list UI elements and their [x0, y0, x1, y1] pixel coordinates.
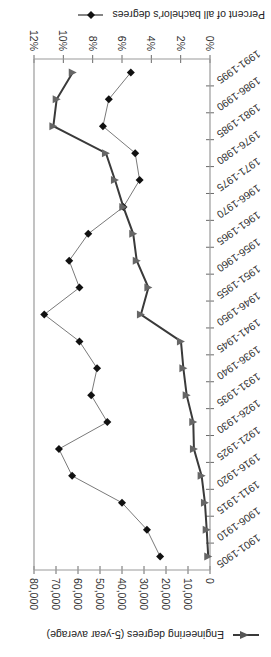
- primary-tick-label: 80,000: [28, 578, 40, 610]
- diamond-marker-icon: [75, 337, 83, 345]
- secondary-tick-label: 8%: [87, 36, 99, 51]
- secondary-tick-label: 0%: [204, 36, 216, 51]
- legend-triangle-marker-icon: [240, 631, 249, 639]
- legend-percent: Percent of all bachelor's degrees: [78, 9, 265, 21]
- secondary-tick-label: 6%: [116, 36, 128, 51]
- diamond-marker-icon: [87, 391, 95, 399]
- engineering-line: [53, 72, 208, 556]
- diamond-marker-icon: [156, 553, 164, 561]
- secondary-tick-label: 12%: [28, 30, 40, 51]
- legend-percent-label: Percent of all bachelor's degrees: [112, 9, 265, 21]
- primary-tick-label: 70,000: [50, 578, 62, 610]
- period-axis: 1901-19051906-19101911-19151916-19201921…: [206, 48, 263, 571]
- percent-axis: 0%2%4%6%8%10%12%: [28, 30, 216, 63]
- engineering-degrees-axis: 010,00020,00030,00040,00050,00060,00070,…: [28, 566, 216, 610]
- diamond-marker-icon: [103, 418, 111, 426]
- plot-area: [34, 59, 210, 570]
- diamond-marker-icon: [75, 284, 83, 292]
- secondary-tick-label: 4%: [145, 36, 157, 51]
- diamond-marker-icon: [84, 230, 92, 238]
- triangle-marker-icon: [69, 68, 77, 76]
- line-chart: Engineering degrees (5-year average) 010…: [0, 0, 271, 657]
- legend-engineering: Engineering degrees (5-year average): [47, 629, 259, 641]
- primary-tick-label: 40,000: [116, 578, 128, 610]
- series-percent-of-bachelors: [40, 68, 164, 560]
- primary-tick-label: 0: [204, 578, 216, 584]
- series-engineering-degrees: [49, 68, 212, 560]
- chart-container: Engineering degrees (5-year average) 010…: [0, 0, 271, 657]
- legend-diamond-marker-icon: [87, 11, 95, 19]
- diamond-marker-icon: [68, 472, 76, 480]
- secondary-tick-label: 10%: [57, 30, 69, 51]
- primary-tick-label: 20,000: [160, 578, 172, 610]
- legend-engineering-label: Engineering degrees (5-year average): [47, 629, 224, 641]
- primary-tick-label: 60,000: [72, 578, 84, 610]
- primary-tick-label: 10,000: [182, 578, 194, 610]
- diamond-marker-icon: [65, 257, 73, 265]
- primary-tick-label: 30,000: [138, 578, 150, 610]
- diamond-marker-icon: [55, 445, 63, 453]
- diamond-marker-icon: [93, 364, 101, 372]
- diamond-marker-icon: [136, 176, 144, 184]
- secondary-tick-label: 2%: [175, 36, 187, 51]
- diamond-marker-icon: [40, 311, 48, 319]
- primary-tick-label: 50,000: [94, 578, 106, 610]
